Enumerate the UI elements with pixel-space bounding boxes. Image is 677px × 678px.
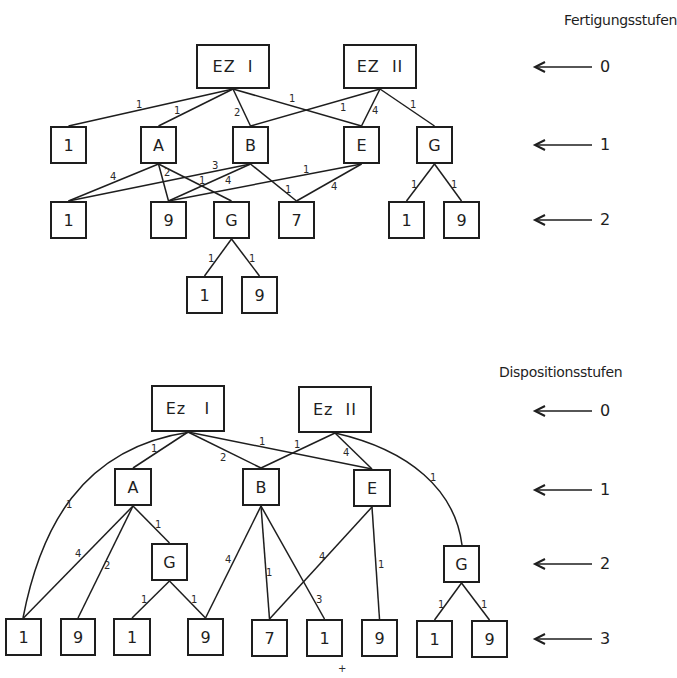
node-label: 9: [200, 628, 210, 647]
edge-quantity-label: 2: [234, 108, 240, 118]
part-node: G: [416, 126, 453, 164]
edge-quantity-label: 4: [343, 448, 349, 458]
edge-b_l1_B-b_l3_7: [261, 506, 270, 619]
edge-quantity-label: 4: [372, 106, 378, 116]
part-node: 1: [5, 618, 42, 656]
edge-quantity-label: 2: [220, 453, 226, 463]
part-node: 1: [113, 618, 151, 656]
node-label: 1: [18, 628, 28, 647]
edge-quantity-label: 4: [331, 182, 337, 192]
part-node: G: [151, 543, 188, 581]
edge-t_l1_B-t_l2_7: [251, 164, 297, 201]
part-node: 1: [416, 620, 453, 658]
edge-quantity-label: 1: [136, 100, 142, 110]
edge-quantity-label: 1: [378, 560, 384, 570]
edge-quantity-label: 1: [208, 254, 214, 264]
edge-t_l1_G-t_l2_9b: [435, 164, 462, 201]
level-number: 1: [600, 135, 610, 154]
edge-quantity-label: 4: [225, 176, 231, 186]
level-number: 0: [600, 401, 610, 420]
part-node: E: [353, 469, 391, 507]
part-node: 9: [187, 618, 224, 656]
end-product-node: Ez I: [151, 385, 225, 432]
node-label: G: [225, 211, 237, 230]
edge-quantity-label: 4: [110, 172, 116, 182]
edge-quantity-label: 1: [411, 180, 417, 190]
node-label: 9: [484, 630, 494, 649]
edge-quantity-label: 1: [199, 176, 205, 186]
node-label: B: [256, 478, 267, 497]
edge-quantity-label: 3: [316, 595, 322, 605]
node-label: Ez I: [166, 399, 210, 418]
node-label: EZ I: [213, 57, 254, 76]
node-label: 9: [456, 211, 466, 230]
edge-quantity-label: 1: [151, 444, 157, 454]
edge-quantity-label: 1: [191, 595, 197, 605]
edge-quantity-label: 1: [141, 595, 147, 605]
edge-b_l2_G-b_l3_1b: [132, 581, 170, 618]
node-label: 9: [254, 286, 264, 305]
edge-t_ez1-t_l1_A: [159, 89, 234, 126]
edge-b_l1_B-b_l3_1c: [261, 506, 325, 619]
edge-t_l1_B-t_l2_9: [169, 164, 251, 201]
node-label: 1: [199, 286, 209, 305]
node-label: 1: [401, 211, 411, 230]
edge-quantity-label: 2: [104, 561, 110, 571]
part-node: 7: [251, 619, 288, 657]
part-node: 9: [443, 201, 480, 239]
edge-quantity-label: 1: [155, 520, 161, 530]
edge-b_l1_A-b_l3_1: [24, 506, 134, 618]
edge-quantity-label: 1: [259, 437, 265, 447]
edge-b_ez1-b_l3_1: [23, 432, 190, 618]
part-node: 1: [50, 126, 87, 164]
edge-t_ez1-t_l1_1: [69, 89, 234, 126]
edge-quantity-label: 4: [225, 555, 231, 565]
edge-quantity-label: 4: [75, 549, 81, 559]
edge-t_l1_A-t_l2_1: [69, 164, 159, 201]
edge-b_l2_G-b_l3_9b: [170, 581, 206, 618]
edge-t_ez2-t_l1_B: [251, 89, 381, 126]
edge-quantity-label: 1: [289, 94, 295, 104]
node-label: 9: [73, 628, 83, 647]
level-number: 2: [600, 210, 610, 229]
section-title-disposition: Dispositionsstufen: [499, 364, 622, 380]
part-node: E: [343, 126, 380, 164]
part-node: 1: [388, 201, 425, 239]
end-product-node: EZ I: [196, 44, 270, 89]
edge-quantity-label: 1: [285, 185, 291, 195]
edge-quantity-label: 1: [410, 100, 416, 110]
part-node: A: [140, 126, 177, 164]
part-node: 1: [50, 201, 87, 239]
part-node: G: [443, 545, 480, 583]
edge-b_l1_B-b_l3_9b: [206, 506, 262, 618]
node-label: Ez II: [313, 400, 357, 419]
edge-t_ez2-t_l1_G: [380, 89, 435, 126]
node-label: 1: [63, 136, 73, 155]
edge-quantity-label: 1: [303, 165, 309, 175]
level-number: 0: [600, 57, 610, 76]
node-label: 1: [429, 630, 439, 649]
node-label: G: [428, 136, 440, 155]
node-label: 7: [264, 629, 274, 648]
part-node: A: [114, 468, 152, 506]
part-node: 9: [471, 620, 508, 658]
end-product-node: EZ II: [343, 44, 417, 89]
edge-b_l1_A-b_l2_G: [133, 506, 170, 543]
node-label: A: [153, 136, 164, 155]
node-label: EZ II: [357, 57, 404, 76]
edge-quantity-label: 1: [481, 600, 487, 610]
node-label: E: [356, 136, 366, 155]
edge-quantity-label: 1: [340, 103, 346, 113]
end-product-node: Ez II: [298, 386, 372, 433]
level-number: 3: [600, 629, 610, 648]
part-node: 1: [186, 276, 223, 314]
part-node: 7: [278, 201, 315, 239]
part-node: 1: [306, 619, 343, 657]
section-title-fertigung: Fertigungsstufen: [564, 12, 677, 28]
edge-quantity-label: 1: [430, 473, 436, 483]
node-label: G: [163, 553, 175, 572]
part-node: B: [242, 468, 280, 506]
node-label: 1: [319, 629, 329, 648]
part-node: 9: [60, 618, 96, 656]
